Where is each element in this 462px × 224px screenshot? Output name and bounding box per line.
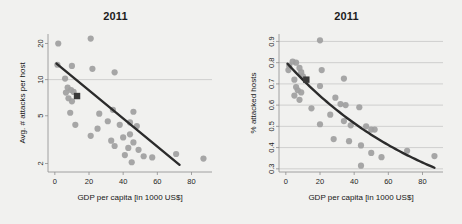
x-tick-label: 40 [119,177,127,186]
data-point [200,155,206,161]
data-point [62,76,68,82]
data-point [327,112,333,118]
data-point [358,142,364,148]
data-point [149,154,155,160]
data-point [108,138,114,144]
data-point [96,111,102,117]
y-axis-title: Avg. # attacks per host [18,62,27,144]
data-point [120,134,126,140]
x-tick-label: 40 [350,177,358,186]
data-point [94,126,100,132]
y-tick-label: 20 [37,39,46,47]
y-tick-label: 10 [37,75,46,83]
data-point [368,150,374,156]
highlight-marker [303,76,309,82]
data-point [127,131,133,137]
data-point [135,147,141,153]
data-point [296,97,302,103]
data-point [130,109,136,115]
y-tick-label: 0.6 [268,100,277,110]
data-point [308,105,314,111]
data-point [317,83,323,89]
y-axis-title: % attacked hosts [249,73,258,134]
x-axis-title: GDP per capita [in 1000 US$] [77,193,182,202]
y-tick-label: 5 [37,114,46,118]
data-point [317,37,323,43]
data-point [431,153,437,159]
chart-canvas-right: 0.30.40.50.60.70.80.9020406080GDP per ca… [231,0,462,224]
x-tick-label: 0 [53,177,57,186]
data-point [358,163,364,169]
data-point [372,126,378,132]
highlight-marker [74,93,80,99]
chart-panel-left: 2011 251020020406080GDP per capita [in 1… [0,0,231,224]
y-tick-label: 0.4 [268,142,277,152]
data-point [122,152,128,158]
data-point [141,153,147,159]
data-point [337,101,343,107]
x-tick-label: 60 [384,177,392,186]
x-tick-label: 80 [187,177,195,186]
x-tick-label: 0 [284,177,288,186]
x-tick-label: 60 [153,177,161,186]
data-point [298,89,304,95]
data-point [72,122,78,128]
data-point [356,104,362,110]
y-tick-label: 0.7 [268,79,277,89]
data-point [317,121,323,127]
data-point [125,145,131,151]
data-point [112,69,118,75]
data-point [341,118,347,124]
data-point [130,139,136,145]
data-point [105,118,111,124]
fit-line [57,64,180,165]
chart-canvas-left: 251020020406080GDP per capita [in 1000 U… [0,0,231,224]
data-point [332,95,338,101]
data-point [341,75,347,81]
data-point [129,159,135,165]
x-tick-label: 80 [418,177,426,186]
data-point [63,89,69,95]
chart-panel-right: 2011 0.30.40.50.60.70.80.9020406080GDP p… [231,0,462,224]
data-point [291,92,297,98]
data-point [173,151,179,157]
data-point [293,60,299,66]
y-tick-label: 0.9 [268,36,277,46]
data-point [89,66,95,72]
data-point [88,35,94,41]
data-point [69,63,75,69]
data-point [55,40,61,46]
data-point [378,154,384,160]
data-point [88,133,94,139]
data-point [291,77,297,83]
y-tick-label: 2 [37,161,46,165]
x-tick-label: 20 [85,177,93,186]
figure-root: 2011 251020020406080GDP per capita [in 1… [0,0,462,224]
x-axis-title: GDP per capita [in 1000 US$] [308,193,413,202]
data-point [67,110,73,116]
data-point [112,143,118,149]
x-tick-label: 20 [316,177,324,186]
fit-curve [288,64,435,168]
data-point [331,136,337,142]
y-tick-label: 0.5 [268,121,277,131]
y-tick-label: 0.8 [268,57,277,67]
y-tick-label: 0.3 [268,164,277,174]
data-point [343,102,349,108]
data-point [319,67,325,73]
data-point [117,122,123,128]
data-point [346,138,352,144]
